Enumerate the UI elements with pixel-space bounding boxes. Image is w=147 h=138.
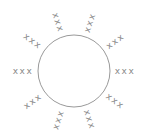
radial-label: xxx xyxy=(104,91,126,111)
radial-label: xxx xyxy=(22,91,44,111)
radial-diagram: xxxxxxxxxxxxxxxxxxxxxxxxxxxxxx xyxy=(0,0,147,138)
radial-label: xxx xyxy=(104,31,126,51)
radial-label: xxx xyxy=(82,11,98,34)
radial-label: xxx xyxy=(13,66,33,76)
radial-label: xxx xyxy=(82,108,98,131)
radial-label: xxx xyxy=(50,11,66,34)
radial-label: xxx xyxy=(115,66,135,76)
radial-label: xxx xyxy=(22,31,44,51)
center-circle xyxy=(38,35,110,107)
radial-label: xxx xyxy=(50,108,66,131)
radial-labels: xxxxxxxxxxxxxxxxxxxxxxxxxxxxxx xyxy=(13,11,135,131)
